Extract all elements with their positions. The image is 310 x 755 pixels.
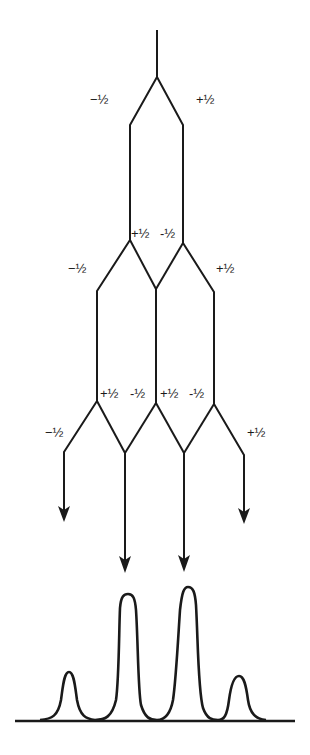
label-l2-outer-left: −½ bbox=[68, 261, 87, 276]
label-l3-d: -½ bbox=[189, 386, 204, 401]
tree-level-1: −½ +½ bbox=[90, 30, 215, 243]
label-l1-right: +½ bbox=[196, 92, 215, 107]
branch-l2-inner-left bbox=[130, 240, 156, 289]
branch-l1-right bbox=[157, 77, 183, 243]
branch-l3-outer-right bbox=[214, 404, 244, 514]
spectrum bbox=[15, 587, 295, 721]
label-l3-a: +½ bbox=[100, 386, 119, 401]
label-l1-left: −½ bbox=[90, 92, 109, 107]
branch-l3-d bbox=[184, 404, 214, 453]
arrowheads bbox=[58, 506, 250, 573]
branch-l3-a bbox=[97, 401, 125, 453]
branch-l2-outer-left bbox=[97, 240, 130, 401]
branch-l2-outer-right bbox=[183, 243, 214, 404]
label-l2-inner-right: -½ bbox=[160, 226, 175, 241]
branch-l1-left bbox=[130, 77, 157, 240]
tree-level-3: +½ -½ +½ -½ −½ +½ bbox=[45, 386, 266, 562]
label-l3-b: -½ bbox=[130, 386, 145, 401]
branch-l3-outer-left bbox=[64, 401, 97, 512]
label-l2-inner-left: +½ bbox=[131, 226, 150, 241]
label-l3-outer-right: +½ bbox=[247, 425, 266, 440]
branch-l3-c bbox=[156, 403, 184, 453]
branch-l2-inner-right bbox=[156, 243, 183, 289]
label-l3-outer-left: −½ bbox=[45, 425, 64, 440]
label-l3-c: +½ bbox=[160, 386, 179, 401]
spectrum-trace bbox=[40, 587, 266, 720]
splitting-tree-diagram: −½ +½ +½ -½ −½ +½ +½ -½ +½ -½ −½ +½ bbox=[0, 0, 310, 755]
label-l2-outer-right: +½ bbox=[216, 261, 235, 276]
tree-level-2: +½ -½ −½ +½ bbox=[68, 226, 235, 404]
branch-l3-b bbox=[125, 403, 156, 453]
